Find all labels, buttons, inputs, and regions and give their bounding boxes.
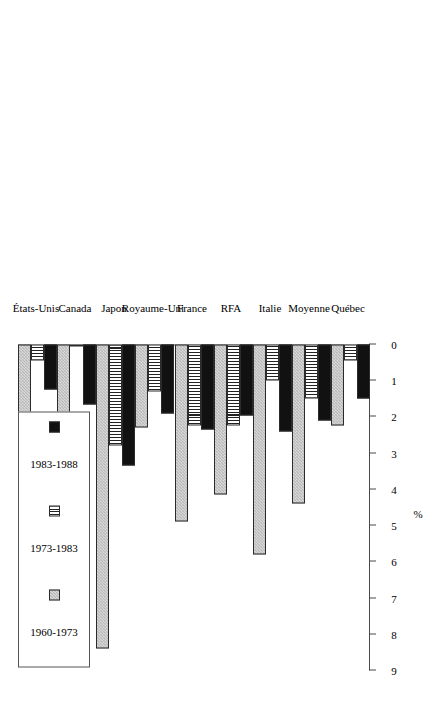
bar	[201, 344, 214, 429]
bar	[214, 344, 227, 494]
bar	[331, 344, 344, 426]
legend-item-2: 1973-1983	[26, 505, 82, 573]
bar	[292, 344, 305, 503]
bar	[148, 344, 161, 391]
axis-tick-label: 0	[381, 338, 407, 350]
bar	[122, 344, 135, 465]
bar	[357, 344, 370, 398]
axis-tick	[369, 633, 376, 634]
axis-tick-label: 6	[381, 555, 407, 567]
bar	[175, 344, 188, 521]
bar-group: Japon	[96, 344, 135, 670]
bar	[344, 344, 357, 360]
bar	[318, 344, 331, 420]
legend-label-2: 1973-1983	[28, 541, 80, 553]
axis-tick	[369, 524, 376, 525]
bar	[240, 344, 253, 415]
axis-tick	[369, 379, 376, 380]
axis-tick-label: 1	[381, 374, 407, 386]
bar	[83, 344, 96, 404]
axis-tick-label: 8	[381, 628, 407, 640]
chart-legend: 1960-1973 1973-1983 1983-1988	[18, 411, 90, 667]
legend-label-3: 1983-1988	[28, 457, 80, 469]
legend-swatch-1973-1983-icon	[49, 505, 60, 516]
bar-group: Royaume-Uni	[135, 344, 174, 670]
bar	[135, 344, 148, 427]
bar	[31, 344, 44, 360]
legend-label-1: 1960-1973	[28, 625, 80, 637]
axis-tick	[369, 415, 376, 416]
bar	[70, 344, 83, 346]
legend-swatch-1960-1973-icon	[49, 589, 60, 600]
bar	[96, 344, 109, 648]
axis-tick-label: 4	[381, 483, 407, 495]
legend-swatch-1983-1988-icon	[49, 421, 60, 432]
bar	[305, 344, 318, 398]
axis-tick-label: 9	[381, 664, 407, 676]
bar	[188, 344, 201, 426]
bar	[227, 344, 240, 426]
axis-tick-label: 5	[381, 519, 407, 531]
bar	[44, 344, 57, 389]
axis-tick	[369, 597, 376, 598]
bar-group: France	[175, 344, 214, 670]
bar	[253, 344, 266, 554]
axis-tick-label: 2	[381, 410, 407, 422]
category-label: Québec	[315, 301, 381, 313]
bar	[161, 344, 174, 413]
bar	[266, 344, 279, 380]
bar-group: Italie	[253, 344, 292, 670]
axis-tick	[369, 452, 376, 453]
bar-group: RFA	[214, 344, 253, 670]
axis-tick-label: 7	[381, 592, 407, 604]
bar	[109, 344, 122, 445]
axis-tick	[369, 488, 376, 489]
legend-item-3: 1983-1988	[26, 421, 82, 489]
axis-tick	[369, 343, 376, 344]
bar	[279, 344, 292, 431]
bar-group: Québec	[331, 344, 370, 670]
axis-tick	[369, 560, 376, 561]
axis-tick	[369, 669, 376, 670]
bar-group: Moyenne	[292, 344, 331, 670]
legend-item-1: 1960-1973	[26, 589, 82, 657]
axis-title: %	[413, 507, 422, 519]
axis-tick-label: 3	[381, 447, 407, 459]
